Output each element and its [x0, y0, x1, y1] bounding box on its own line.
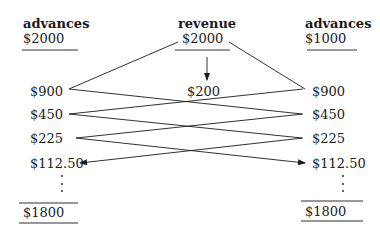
- left-value-2: $450: [30, 108, 63, 122]
- right-value-2: $450: [312, 108, 345, 122]
- center-retained: $200: [187, 85, 220, 99]
- right-initial: $1000: [305, 32, 346, 46]
- left-initial: $2000: [23, 32, 64, 46]
- right-value-4: $112.50: [312, 157, 366, 171]
- left-value-4: $112.50: [30, 157, 84, 171]
- right-value-3: $225: [312, 132, 345, 146]
- left-total: $1800: [23, 206, 64, 220]
- left-value-1: $900: [30, 85, 63, 99]
- center-initial: $2000: [182, 32, 223, 46]
- right-value-1: $900: [312, 85, 345, 99]
- right-total: $1800: [305, 205, 346, 219]
- center-header: revenue: [178, 17, 236, 31]
- left-value-3: $225: [30, 132, 63, 146]
- right-header: advances: [305, 17, 371, 31]
- left-header: advances: [23, 17, 89, 31]
